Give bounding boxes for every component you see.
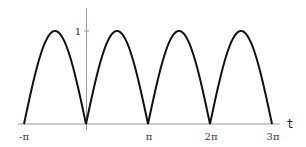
x-tick-label-3pi: 3π — [267, 131, 280, 142]
chart-canvas: 1 -π π 2π 3π t — [0, 0, 306, 147]
x-tick-label-pi: π — [146, 131, 153, 142]
x-axis-label: t — [286, 117, 293, 131]
y-tick-label-1: 1 — [75, 26, 81, 37]
x-tick-label-2pi: 2π — [205, 131, 218, 142]
abs-sine-curve — [24, 31, 272, 124]
x-tick-label-neg-pi: -π — [19, 131, 29, 142]
